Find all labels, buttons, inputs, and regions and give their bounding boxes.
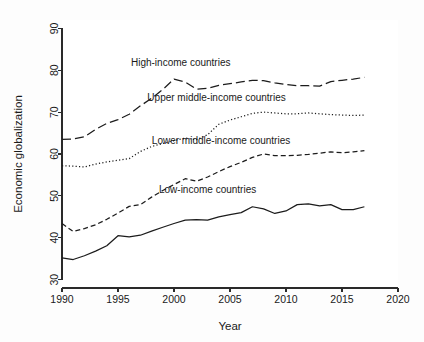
series-label-high-income-countries: High-income countries	[131, 57, 231, 68]
x-tick-label: 2015	[330, 293, 354, 305]
x-tick-label: 1995	[106, 293, 130, 305]
y-axis-title: Economic globalization	[12, 95, 24, 213]
economic-globalization-line-chart: 30405060708090 1990199520002005201020152…	[0, 0, 424, 342]
y-axis: 30405060708090	[48, 22, 62, 285]
x-tick-label: 1990	[50, 293, 74, 305]
y-tick-label: 70	[48, 106, 60, 118]
y-tick-label: 50	[48, 190, 60, 202]
chart-figure: 30405060708090 1990199520002005201020152…	[0, 0, 424, 342]
x-tick-label: 2005	[218, 293, 242, 305]
x-tick-label: 2010	[274, 293, 298, 305]
y-tick-label: 90	[48, 22, 60, 34]
series-label-upper-middle-income-countries: Upper middle-income countries	[147, 92, 285, 103]
series-label-lower-middle-income-countries: Lower middle-income countries	[152, 135, 290, 146]
y-tick-label: 60	[48, 148, 60, 160]
x-axis-title: Year	[218, 320, 241, 332]
x-axis: 1990199520002005201020152020	[50, 288, 410, 305]
y-tick-label: 80	[48, 64, 60, 76]
x-tick-label: 2000	[162, 293, 186, 305]
series-label-low-income-countries: Low-income countries	[159, 184, 256, 195]
y-tick-label: 30	[48, 274, 60, 286]
x-tick-label: 2020	[386, 293, 410, 305]
y-tick-label: 40	[48, 232, 60, 244]
